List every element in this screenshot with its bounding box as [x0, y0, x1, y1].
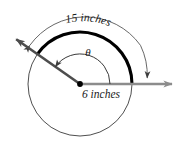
geometry-figure: 15 inches θ 6 inches [0, 0, 177, 145]
figure-canvas: 15 inches θ 6 inches [0, 0, 177, 145]
radius-label: 6 inches [82, 88, 121, 100]
theta-angle-arc [55, 54, 110, 84]
theta-label: θ [85, 46, 91, 58]
terminal-side-ray [16, 39, 80, 84]
arc-length-measure-tail [141, 45, 148, 78]
arc-length-label: 15 inches [64, 11, 113, 28]
bold-subtended-arc [37, 32, 132, 84]
center-vertex-dot [77, 81, 83, 87]
